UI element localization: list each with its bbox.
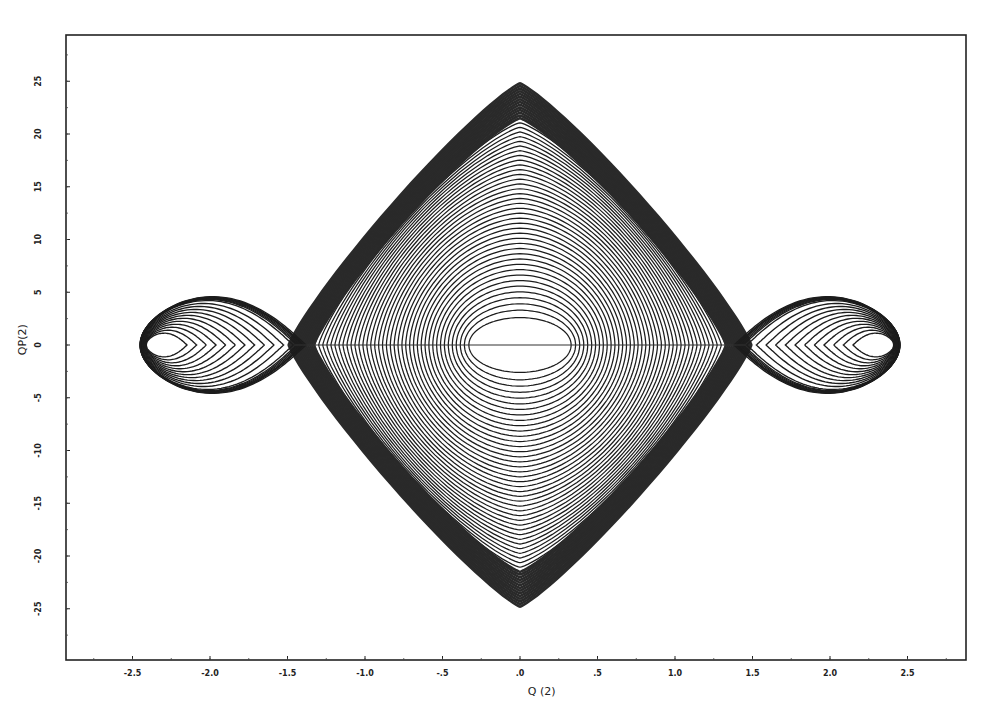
phase-portrait-chart: -2.5-2.0-1.5-1.0-.5.0.51.01.52.02.5 2520… <box>0 0 996 715</box>
y-tick-label: 5 <box>34 289 43 295</box>
x-tick-label: -.5 <box>437 669 449 678</box>
x-tick-label: 1.0 <box>668 669 683 678</box>
y-tick-label: -20 <box>34 548 43 563</box>
x-tick-label: .0 <box>516 669 525 678</box>
x-tick-label: -1.5 <box>279 669 297 678</box>
x-tick-label: 2.5 <box>900 669 915 678</box>
lobe-neck-orbit <box>140 298 300 391</box>
y-tick-label: 15 <box>34 181 43 193</box>
x-tick-label: .5 <box>593 669 602 678</box>
left-lobe-orbit <box>142 309 264 380</box>
lobe-neck-orbit <box>141 299 299 391</box>
y-tick-label: -25 <box>34 601 43 616</box>
lobe-neck-orbit <box>740 298 900 391</box>
right-lobe-orbit <box>785 312 897 377</box>
y-axis: 2520151050-5-10-15-20-25 <box>34 55 70 635</box>
x-axis-title: Q (2) <box>528 685 556 698</box>
right-lobe-orbit <box>814 321 895 368</box>
right-lobe-orbit <box>747 301 900 390</box>
y-tick-label: 25 <box>34 75 43 87</box>
y-tick-label: 20 <box>34 128 43 140</box>
lobe-neck-orbit <box>736 297 900 393</box>
plot-area <box>140 83 900 606</box>
left-lobe-orbit <box>144 321 225 368</box>
x-tick-label: -2.5 <box>124 669 142 678</box>
left-lobe-orbit <box>146 333 187 357</box>
right-lobe-orbit <box>853 333 894 357</box>
x-tick-label: 2.0 <box>823 669 838 678</box>
lobe-neck-orbit <box>738 298 900 392</box>
left-lobe-orbit <box>145 324 216 365</box>
y-axis-title: QP(2) <box>16 324 29 355</box>
lobe-neck-orbit <box>140 298 302 392</box>
lobe-neck-orbit <box>140 297 304 393</box>
y-tick-label: -5 <box>34 393 43 402</box>
left-lobe-orbit <box>143 312 255 377</box>
y-tick-label: -10 <box>34 443 43 458</box>
x-tick-label: 1.5 <box>745 669 760 678</box>
right-lobe-orbit <box>824 324 895 365</box>
left-lobe-orbit <box>141 301 293 390</box>
lobe-neck-orbit <box>741 299 899 391</box>
x-tick-label: -2.0 <box>201 669 219 678</box>
x-tick-label: -1.0 <box>356 669 374 678</box>
right-lobe-orbit <box>776 309 898 380</box>
y-tick-label: -15 <box>34 496 43 511</box>
y-tick-label: 10 <box>34 234 43 246</box>
y-tick-label: 0 <box>34 342 43 348</box>
